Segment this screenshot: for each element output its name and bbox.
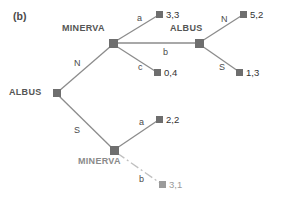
terminal-node-04: [154, 69, 161, 76]
panel-label: (b): [13, 11, 26, 22]
game-tree-svg: [0, 0, 283, 199]
payoff-label-22: 2,2: [166, 115, 179, 125]
edge-root-to-minerva-up: [59, 46, 111, 91]
action-label-b-lower: b: [139, 175, 144, 184]
action-label-N-root: N: [74, 59, 81, 68]
terminal-node-13: [236, 69, 243, 76]
action-label-c-upper: c: [138, 63, 143, 72]
edge-minerva-up-to-payoff-04: [116, 46, 155, 71]
action-label-S-root: S: [74, 126, 80, 135]
player-label-albus-second: ALBUS: [170, 24, 203, 33]
player-label-root-albus: ALBUS: [9, 88, 42, 97]
node-minerva-lower[interactable]: [110, 146, 119, 155]
payoff-label-13: 1,3: [246, 68, 259, 78]
terminal-node-33: [156, 11, 163, 18]
edge-minerva-down-to-payoff-22: [117, 121, 157, 148]
player-label-minerva-upper: MINERVA: [62, 24, 105, 33]
action-label-a-upper: a: [137, 14, 142, 23]
node-root-albus[interactable]: [53, 89, 61, 97]
action-label-S-albus: S: [219, 63, 225, 72]
terminal-node-52: [240, 11, 247, 18]
action-label-a-lower: a: [139, 118, 144, 127]
node-albus-second[interactable]: [195, 39, 204, 48]
payoff-label-04: 0,4: [164, 68, 177, 78]
node-minerva-upper[interactable]: [109, 39, 118, 48]
terminal-node-31: [159, 181, 166, 188]
edge-root-to-minerva-down: [59, 96, 112, 148]
action-label-N-albus: N: [221, 15, 228, 24]
payoff-label-52: 5,2: [250, 10, 263, 20]
game-tree-figure: (b) ALBUS MINERVA ALBUS MINERVA N S a b …: [0, 0, 283, 199]
payoff-label-31: 3,1: [169, 180, 182, 190]
payoff-label-33: 3,3: [166, 10, 179, 20]
action-label-b-upper: b: [163, 48, 168, 57]
terminal-node-22: [156, 116, 163, 123]
player-label-minerva-lower: MINERVA: [78, 157, 121, 166]
